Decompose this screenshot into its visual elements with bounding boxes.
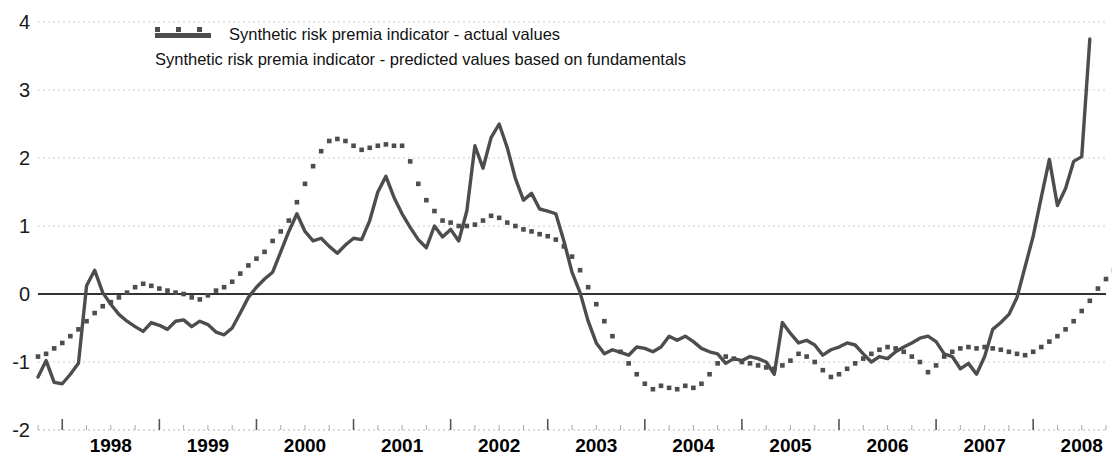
x-axis-tick-label: 2003	[551, 436, 641, 455]
x-axis-tick-label: 1999	[163, 436, 253, 455]
legend-item-predicted: Synthetic risk premia indicator - predic…	[155, 47, 686, 72]
chart-legend: Synthetic risk premia indicator - actual…	[155, 22, 686, 72]
y-axis-tick-label: -2	[0, 420, 30, 440]
y-axis-tick-label: 1	[0, 216, 30, 236]
x-axis-tick-label: 2005	[745, 436, 835, 455]
y-axis-tick-label: 4	[0, 12, 30, 32]
y-axis-tick-label: 0	[0, 284, 30, 304]
x-axis-tick-label: 2006	[843, 436, 933, 455]
y-axis-tick-label: 2	[0, 148, 30, 168]
y-axis-tick-label: 3	[0, 80, 30, 100]
x-axis-tick-label: 1998	[66, 436, 156, 455]
legend-item-actual: Synthetic risk premia indicator - actual…	[155, 22, 686, 47]
x-axis-tick-label: 2001	[357, 436, 447, 455]
x-axis-tick-label: 2002	[454, 436, 544, 455]
x-axis-tick-label: 2008	[1037, 436, 1112, 455]
x-axis-tick-label: 2004	[648, 436, 738, 455]
legend-label-actual: Synthetic risk premia indicator - actual…	[229, 25, 560, 44]
legend-label-predicted: Synthetic risk premia indicator - predic…	[155, 50, 686, 69]
x-axis-tick-label: 2000	[260, 436, 350, 455]
y-axis-tick-label: -1	[0, 352, 30, 372]
x-axis-tick-label: 2007	[940, 436, 1030, 455]
legend-dotted-line-icon	[155, 27, 211, 32]
